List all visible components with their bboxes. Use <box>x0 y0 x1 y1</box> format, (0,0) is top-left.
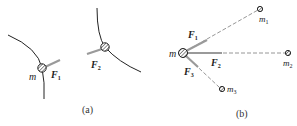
force-f1-b-sub: 1 <box>195 35 198 41</box>
center-m-label: m <box>169 48 176 59</box>
particle-m <box>38 64 46 72</box>
body-m3 <box>219 86 224 91</box>
body-m3-label: m3 <box>227 84 237 95</box>
force-f3-b-label: F3 <box>183 66 194 78</box>
particle-m-center <box>179 49 188 58</box>
caption-a: (a) <box>82 104 93 116</box>
panel-a: m F1 F2 (a) <box>8 8 141 116</box>
force-f2-b-label: F2 <box>210 57 221 69</box>
force-f1-sub: 1 <box>58 75 61 81</box>
body-m2 <box>285 50 290 55</box>
force-arrow-f1 <box>45 60 60 67</box>
body-m2-sub: 2 <box>290 63 293 69</box>
body-m1 <box>257 6 262 11</box>
force-f2-sub: 2 <box>98 65 101 71</box>
diagram-canvas: m F1 F2 (a) m m1 m2 m3 F1 F2 F3 (b) <box>0 0 297 126</box>
body-m3-sub: 3 <box>234 89 237 95</box>
force-f2-b-sub: 2 <box>218 63 221 69</box>
particle-2 <box>101 43 109 51</box>
panel-b: m m1 m2 m3 F1 F2 F3 (b) <box>169 6 293 120</box>
force-arrow-f2 <box>87 49 102 54</box>
trajectory-curve-2 <box>97 8 141 72</box>
force-f2-label: F2 <box>90 59 101 71</box>
caption-b: (b) <box>236 108 248 120</box>
body-m1-label: m1 <box>259 14 269 25</box>
force-arrow-f1-b <box>186 40 207 51</box>
body-m2-label: m2 <box>283 58 293 69</box>
body-m1-sub: 1 <box>266 19 269 25</box>
force-f1-b-label: F1 <box>187 29 198 41</box>
particle-m-label: m <box>29 71 36 82</box>
force-f1-label: F1 <box>50 69 61 81</box>
force-f3-b-sub: 3 <box>191 72 194 78</box>
